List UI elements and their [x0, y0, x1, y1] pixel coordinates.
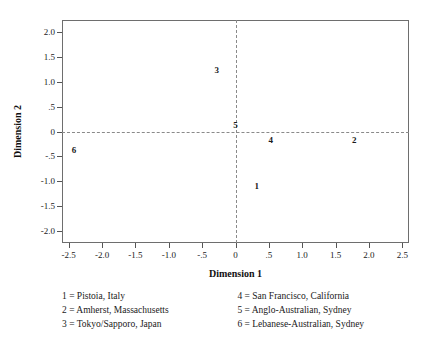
- legend-item: 5 = Anglo-Australian, Sydney: [237, 304, 422, 317]
- y-tick-mark: [57, 206, 62, 207]
- legend-item: 2 = Amherst, Massachusetts: [62, 304, 237, 317]
- x-tick-label: 2.5: [397, 250, 408, 260]
- y-tick-mark: [57, 32, 62, 33]
- data-point-label-4: 4: [269, 135, 274, 144]
- y-axis-title: Dimension 2: [12, 20, 26, 243]
- scatter-plot-figure: 2.01.51.0.50-.5-1.0-1.5-2.0 -2.5-2.0-1.5…: [0, 0, 433, 344]
- y-tick-mark: [57, 156, 62, 157]
- x-tick-label: -1.0: [162, 250, 176, 260]
- x-tick-mark: [402, 243, 403, 248]
- x-tick-label: -.5: [197, 250, 207, 260]
- x-tick-mark: [369, 243, 370, 248]
- legend: 1 = Pistoia, Italy2 = Amherst, Massachus…: [62, 290, 422, 330]
- x-tick-mark: [69, 243, 70, 248]
- y-tick-label: -.5: [45, 151, 55, 161]
- y-tick-mark: [57, 181, 62, 182]
- x-tick-label: -2.5: [62, 250, 76, 260]
- legend-column-right: 4 = San Francisco, California5 = Anglo-A…: [237, 290, 422, 330]
- y-tick-label: -1.0: [41, 176, 55, 186]
- y-tick-mark: [57, 231, 62, 232]
- x-tick-label: 0: [233, 250, 238, 260]
- x-tick-label: 2.0: [363, 250, 374, 260]
- x-tick-mark: [102, 243, 103, 248]
- data-point-label-1: 1: [255, 182, 260, 191]
- legend-column-left: 1 = Pistoia, Italy2 = Amherst, Massachus…: [62, 290, 237, 330]
- data-point-label-3: 3: [215, 65, 220, 74]
- y-tick-label: -2.0: [41, 226, 55, 236]
- y-tick-label: .5: [48, 102, 55, 112]
- x-tick-mark: [336, 243, 337, 248]
- x-tick-label: -1.5: [128, 250, 142, 260]
- y-tick-mark: [57, 132, 62, 133]
- y-tick-mark: [57, 82, 62, 83]
- x-tick-mark: [202, 243, 203, 248]
- x-tick-mark: [135, 243, 136, 248]
- x-tick-label: .5: [265, 250, 272, 260]
- y-tick-label: 1.5: [44, 52, 55, 62]
- y-tick-label: 2.0: [44, 27, 55, 37]
- data-point-label-5: 5: [233, 121, 238, 130]
- y-tick-label: -1.5: [41, 201, 55, 211]
- x-tick-mark: [302, 243, 303, 248]
- x-tick-mark: [269, 243, 270, 248]
- legend-item: 1 = Pistoia, Italy: [62, 290, 237, 303]
- x-tick-label: -2.0: [95, 250, 109, 260]
- reference-line-vertical-zero: [236, 20, 237, 243]
- legend-item: 6 = Lebanese-Australian, Sydney: [237, 318, 422, 331]
- y-tick-mark: [57, 107, 62, 108]
- x-tick-mark: [236, 243, 237, 248]
- data-point-label-2: 2: [352, 135, 357, 144]
- legend-item: 4 = San Francisco, California: [237, 290, 422, 303]
- x-axis-title: Dimension 1: [62, 268, 409, 279]
- x-tick-label: 1.5: [330, 250, 341, 260]
- y-tick-label: 0: [51, 127, 56, 137]
- x-tick-label: 1.0: [297, 250, 308, 260]
- legend-item: 3 = Tokyo/Sapporo, Japan: [62, 318, 237, 331]
- plot-area: 2.01.51.0.50-.5-1.0-1.5-2.0 -2.5-2.0-1.5…: [62, 20, 409, 243]
- y-tick-mark: [57, 57, 62, 58]
- data-point-label-6: 6: [72, 146, 77, 155]
- y-tick-label: 1.0: [44, 77, 55, 87]
- x-tick-mark: [169, 243, 170, 248]
